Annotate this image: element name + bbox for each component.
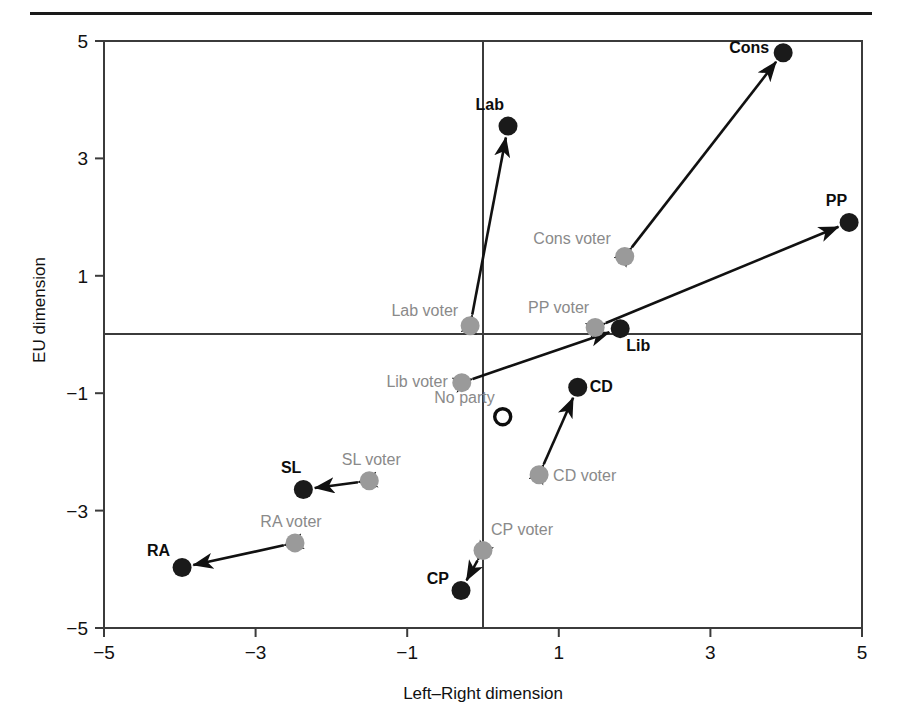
data-point-marker: [530, 465, 549, 484]
data-point-marker: [495, 409, 511, 425]
y-tick-label: 1: [77, 266, 88, 287]
y-tick-label: −3: [66, 501, 88, 522]
data-point-label: Lib: [626, 337, 650, 354]
data-point-marker: [360, 471, 379, 490]
y-tick-label: −5: [66, 618, 88, 639]
data-point-marker: [474, 541, 493, 560]
x-axis-ticks: −5−3−1135: [93, 628, 867, 663]
x-tick-label: −5: [93, 642, 115, 663]
x-tick-label: 5: [857, 642, 868, 663]
scatter-plot: −5−3−1135 −5−3−1135 LabConsPPLibCDSLRACP…: [0, 0, 902, 726]
data-point-label: CP voter: [491, 521, 554, 538]
connector-arrow: [473, 332, 610, 379]
zero-axes: [104, 41, 862, 628]
data-point-marker: [294, 480, 313, 499]
data-point-marker: [286, 533, 305, 552]
data-point-label: Lab voter: [391, 302, 458, 319]
data-point-label: SL: [281, 459, 302, 476]
data-point-marker: [615, 247, 634, 266]
connector-arrow: [467, 561, 478, 581]
y-tick-label: 3: [77, 148, 88, 169]
connector-arrow: [632, 62, 776, 248]
data-point-label: No party: [434, 389, 494, 406]
data-point-marker: [452, 581, 471, 600]
data-point-label: CD voter: [553, 467, 617, 484]
data-point-marker: [461, 316, 480, 335]
connector-arrow: [544, 398, 573, 464]
x-tick-label: −1: [396, 642, 418, 663]
connector-arrow: [472, 137, 506, 314]
data-point-label: PP: [826, 192, 848, 209]
data-point-label: CD: [590, 378, 613, 395]
data-point-label: RA: [147, 542, 171, 559]
data-point-label: PP voter: [528, 299, 590, 316]
data-point-label: Lib voter: [386, 373, 448, 390]
data-point-label: RA voter: [260, 513, 322, 530]
data-point-marker: [840, 213, 859, 232]
connector-arrows: [193, 62, 838, 581]
data-point-marker: [611, 319, 630, 338]
y-axis-label: EU dimension: [30, 230, 50, 390]
x-tick-label: −3: [245, 642, 267, 663]
data-point-label: CP: [427, 570, 450, 587]
data-point-marker: [173, 558, 192, 577]
data-point-labels: LabConsPPLibCDSLRACPLab voterCons voterP…: [147, 39, 847, 588]
data-point-marker: [499, 117, 518, 136]
data-point-marker: [774, 43, 793, 62]
data-point-label: Cons: [729, 39, 769, 56]
y-axis-ticks: −5−3−1135: [66, 31, 104, 639]
x-tick-label: 3: [705, 642, 716, 663]
data-point-marker: [568, 378, 587, 397]
data-point-marker: [586, 318, 605, 337]
x-axis-label: Left–Right dimension: [104, 684, 862, 704]
data-point-label: Lab: [476, 96, 505, 113]
y-tick-label: 5: [77, 31, 88, 52]
connector-arrow: [193, 545, 283, 565]
y-tick-label: −1: [66, 383, 88, 404]
data-point-label: Cons voter: [533, 230, 611, 247]
connector-arrow: [606, 227, 839, 323]
connector-arrow: [315, 482, 358, 488]
data-point-label: SL voter: [342, 451, 402, 468]
x-tick-label: 1: [554, 642, 565, 663]
figure-container: −5−3−1135 −5−3−1135 LabConsPPLibCDSLRACP…: [0, 0, 902, 726]
